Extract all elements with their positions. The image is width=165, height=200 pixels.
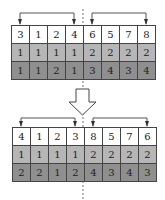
grid-after: 4 1 2 3 8 5 7 6 1 1 1 1 2 2 2 2 2 2 1 2 … [12,127,157,182]
swap-bracket-top-left [20,13,74,24]
grid-cell: 1 [66,62,84,80]
grid-cell: 3 [103,164,121,182]
grid-cell: 1 [31,128,49,146]
grid-cell: 1 [66,44,84,62]
grid-cell: 4 [85,164,103,182]
grid-cell: 5 [102,26,120,44]
grid-cell: 2 [49,128,67,146]
grid-cell: 8 [85,128,103,146]
grid-cell: 1 [30,26,48,44]
grid-cell: 1 [12,44,30,62]
grid-cell: 2 [138,44,156,62]
grid-cell: 2 [48,62,66,80]
swap-bracket-bottom-left [21,118,75,126]
grid-cell: 3 [67,128,85,146]
grid-cell: 8 [138,26,156,44]
grid-cell: 2 [31,164,49,182]
grid-cell: 4 [102,62,120,80]
grid-cell: 1 [49,146,67,164]
grid-cell: 4 [138,62,156,80]
grid-cell: 4 [66,26,84,44]
grid-cell: 7 [121,128,139,146]
grid-cell: 2 [139,146,157,164]
grid-cell: 1 [49,164,67,182]
grid-cell: 3 [12,26,30,44]
grid-cell: 2 [121,146,139,164]
grid-cell: 4 [13,128,31,146]
grid-cell: 2 [84,44,102,62]
grid-cell: 3 [139,164,157,182]
grid-cell: 1 [12,62,30,80]
grid-cell: 2 [48,26,66,44]
grid-cell: 2 [67,164,85,182]
grid-cell: 3 [120,62,138,80]
hollow-down-arrow-icon [69,89,96,115]
grid-cell: 1 [30,44,48,62]
grid-cell: 1 [31,146,49,164]
grid-cell: 1 [48,44,66,62]
grid-cell: 7 [120,26,138,44]
grid-cell: 2 [120,44,138,62]
swap-bracket-top-right [92,13,146,24]
grid-cell: 1 [67,146,85,164]
grid-cell: 6 [139,128,157,146]
grid-before: 3 1 2 4 6 5 7 8 1 1 1 1 2 2 2 2 1 1 2 1 … [11,25,156,80]
swap-bracket-bottom-right [93,118,147,126]
grid-cell: 2 [102,44,120,62]
grid-cell: 2 [85,146,103,164]
grid-cell: 1 [13,146,31,164]
grid-cell: 4 [121,164,139,182]
grid-cell: 1 [30,62,48,80]
grid-cell: 2 [103,146,121,164]
grid-cell: 3 [84,62,102,80]
grid-cell: 6 [84,26,102,44]
grid-cell: 5 [103,128,121,146]
grid-cell: 2 [13,164,31,182]
